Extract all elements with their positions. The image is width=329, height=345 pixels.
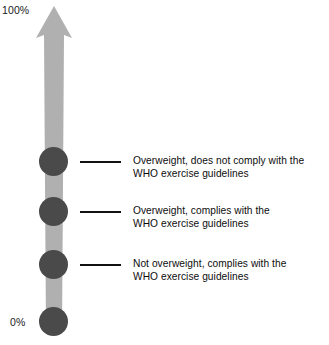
marker-dot-top [39, 147, 68, 176]
axis-label-min: 0% [10, 316, 25, 328]
annotation-lower: Not overweight, complies with the WHO ex… [133, 258, 329, 283]
leader-line-lower [80, 264, 121, 266]
annotation-top: Overweight, does not comply with the WHO… [133, 155, 329, 180]
leader-line-middle [80, 211, 121, 213]
annotation-lower-line-2: WHO exercise guidelines [133, 271, 329, 284]
marker-dot-middle [39, 197, 68, 226]
leader-line-top [80, 161, 121, 163]
marker-dot-lower [39, 250, 68, 279]
annotation-lower-line-1: Not overweight, complies with the [133, 258, 329, 271]
annotation-middle: Overweight, complies with the WHO exerci… [133, 205, 329, 230]
marker-dot-base [39, 307, 68, 336]
annotation-middle-line-2: WHO exercise guidelines [133, 218, 329, 231]
annotation-top-line-2: WHO exercise guidelines [133, 168, 329, 181]
axis-label-max: 100% [2, 4, 29, 16]
figure-canvas: 100% 0% Overweight, does not comply with… [0, 0, 329, 345]
annotation-top-line-1: Overweight, does not comply with the [133, 155, 329, 168]
annotation-middle-line-1: Overweight, complies with the [133, 205, 329, 218]
